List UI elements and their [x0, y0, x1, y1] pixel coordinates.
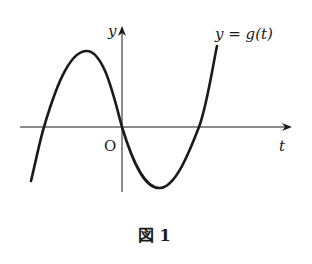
- figure-canvas: y y = g(t) O t 図 1: [0, 0, 312, 264]
- y-axis-label: y: [107, 22, 117, 40]
- x-axis-label: t: [279, 137, 286, 155]
- curve-g: [31, 46, 217, 188]
- figure-caption: 図 1: [138, 226, 171, 245]
- origin-label: O: [104, 137, 116, 155]
- curve-label: y = g(t): [214, 25, 273, 43]
